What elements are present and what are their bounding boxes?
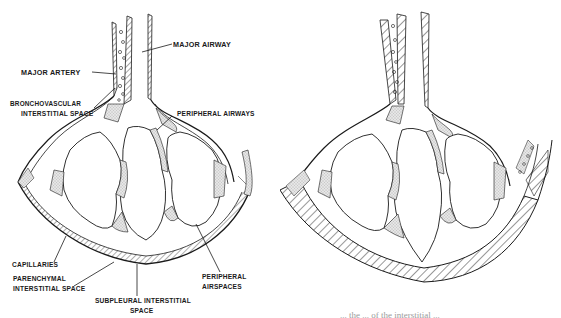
lung-diagram-hatched [280,0,561,318]
caption-fragment: ... the ... of the interstitial ... [340,310,440,318]
label-parenchymal-line1: PARENCHYMAL [13,274,66,283]
label-peripheral-airspaces-line2: AIRSPACES [202,282,242,291]
label-subpleural-line2: SPACE [130,306,153,315]
right-diagram [280,0,561,318]
label-peripheral-airspaces-line1: PERIPHERAL [202,272,247,281]
label-major-artery: MAJOR ARTERY [21,68,80,77]
left-diagram: MAJOR AIRWAY MAJOR ARTERY BRONCHOVASCULA… [0,0,280,318]
label-bronchovascular-line2: INTERSTITIAL SPACE [21,109,93,118]
label-bronchovascular-line1: BRONCHOVASCULAR [10,99,81,108]
label-peripheral-airways: PERIPHERAL AIRWAYS [177,109,255,118]
label-major-airway: MAJOR AIRWAY [173,40,231,49]
label-subpleural-line1: SUBPLEURAL INTERSTITIAL [95,296,191,305]
lung-diagram-labeled [0,0,280,318]
label-parenchymal-line2: INTERSTITIAL SPACE [13,284,85,293]
label-capillaries: CAPILLARIES [12,260,58,269]
